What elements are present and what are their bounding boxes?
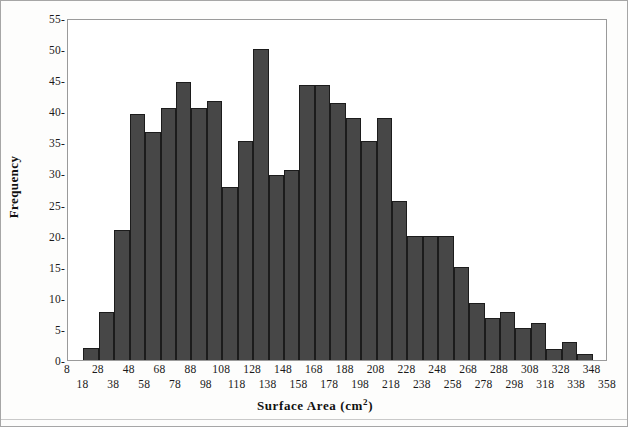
- histogram-bar: [176, 82, 191, 360]
- histogram-bar: [485, 318, 500, 360]
- histogram-bar: [438, 236, 453, 360]
- histogram-bar: [191, 108, 206, 360]
- histogram-bar: [99, 312, 114, 361]
- x-axis-tick-label: 338: [567, 378, 585, 390]
- y-axis-tick-label: 20-: [49, 231, 65, 243]
- x-axis-title-base: Surface Area (cm: [257, 398, 363, 413]
- histogram-bar: [130, 114, 145, 360]
- x-axis-tick-label: 348: [583, 363, 601, 375]
- x-axis-tick-label: 358: [598, 378, 616, 390]
- histogram-bar: [361, 141, 376, 360]
- histogram-bar: [83, 348, 98, 360]
- x-axis-tick-label: 258: [444, 378, 462, 390]
- y-axis-tick-label: 5-: [55, 324, 65, 336]
- histogram-bar: [114, 230, 129, 360]
- bottom-divider: [1, 419, 628, 420]
- y-axis-tick-label: 35-: [49, 137, 65, 149]
- y-axis-tick-label: 30-: [49, 168, 65, 180]
- y-axis-tick-label: 40-: [49, 106, 65, 118]
- x-axis-tick-label: 118: [228, 378, 245, 390]
- histogram-bar: [145, 132, 160, 360]
- histogram-bars: [68, 20, 606, 360]
- histogram-bar: [407, 236, 422, 360]
- x-axis-title: Surface Area (cm2): [1, 397, 628, 414]
- y-axis-tick-label: 55-: [49, 13, 65, 25]
- y-axis-tick-label: 10-: [49, 293, 65, 305]
- histogram-bar: [207, 101, 222, 360]
- x-axis-tick-label: 188: [336, 363, 354, 375]
- x-axis-tick-labels-lower: 1838587898118138158178198218238258278298…: [67, 378, 607, 394]
- histogram-bar: [500, 312, 515, 360]
- x-axis-tick-label: 208: [367, 363, 385, 375]
- y-axis-tick-labels: 0-5-10-15-20-25-30-35-40-45-50-55-: [25, 19, 65, 361]
- histogram-bar: [330, 103, 345, 360]
- x-axis-tick-label: 278: [475, 378, 493, 390]
- x-axis-tick-label: 328: [552, 363, 570, 375]
- x-axis-tick-label: 38: [107, 378, 119, 390]
- x-axis-title-tail: ): [368, 398, 373, 413]
- x-axis-tick-label: 198: [351, 378, 369, 390]
- histogram-bar: [299, 85, 314, 360]
- x-axis-tick-label: 148: [274, 363, 292, 375]
- x-axis-tick-label: 318: [536, 378, 554, 390]
- x-axis-tick-label: 168: [305, 363, 323, 375]
- x-axis-tick-label: 18: [76, 378, 88, 390]
- x-axis-tick-label: 8: [64, 363, 70, 375]
- x-axis-tick-label: 138: [259, 378, 277, 390]
- x-axis-tick-label: 268: [459, 363, 477, 375]
- histogram-bar: [346, 118, 361, 361]
- histogram-bar: [377, 118, 392, 361]
- histogram-bar: [423, 236, 438, 360]
- x-axis-tick-label: 248: [428, 363, 446, 375]
- y-axis-tick-label: 50-: [49, 44, 65, 56]
- histogram-figure: Frequency 0-5-10-15-20-25-30-35-40-45-50…: [0, 0, 628, 427]
- x-axis-tick-labels-upper: 8284868881081281481681882082282482682883…: [67, 363, 607, 379]
- histogram-bar: [469, 303, 484, 360]
- histogram-bar: [546, 349, 561, 360]
- histogram-bar: [515, 328, 530, 360]
- x-axis-tick-label: 128: [243, 363, 261, 375]
- x-axis-tick-label: 88: [184, 363, 196, 375]
- x-axis-tick-label: 288: [490, 363, 508, 375]
- x-axis-tick-label: 298: [505, 378, 523, 390]
- x-axis-tick-label: 98: [200, 378, 212, 390]
- x-axis-tick-label: 238: [413, 378, 431, 390]
- histogram-bar: [577, 354, 592, 360]
- histogram-bar: [238, 141, 253, 361]
- histogram-bar: [392, 201, 407, 360]
- histogram-bar: [454, 267, 469, 360]
- x-axis-tick-label: 308: [521, 363, 539, 375]
- x-axis-tick-label: 78: [169, 378, 181, 390]
- x-axis-tick-label: 218: [382, 378, 400, 390]
- y-axis-tick-label: 25-: [49, 200, 65, 212]
- x-axis-tick-label: 108: [212, 363, 230, 375]
- histogram-bar: [269, 175, 284, 360]
- plot-area: [67, 19, 607, 361]
- x-axis-tick-label: 68: [154, 363, 166, 375]
- histogram-bar: [222, 187, 237, 360]
- x-axis-tick-label: 28: [92, 363, 104, 375]
- y-axis-title: Frequency: [3, 1, 25, 373]
- histogram-bar: [284, 170, 299, 360]
- x-axis-tick-label: 178: [320, 378, 338, 390]
- x-axis-tick-label: 228: [397, 363, 415, 375]
- y-axis-tick-label: 45-: [49, 75, 65, 87]
- x-axis-tick-label: 48: [123, 363, 135, 375]
- histogram-bar: [315, 85, 330, 360]
- y-axis-title-text: Frequency: [6, 156, 22, 219]
- y-axis-tick-label: 15-: [49, 262, 65, 274]
- histogram-bar: [562, 342, 577, 360]
- histogram-bar: [531, 323, 546, 360]
- histogram-bar: [161, 108, 176, 360]
- histogram-bar: [253, 49, 268, 360]
- x-axis-tick-label: 58: [138, 378, 150, 390]
- x-axis-tick-label: 158: [289, 378, 307, 390]
